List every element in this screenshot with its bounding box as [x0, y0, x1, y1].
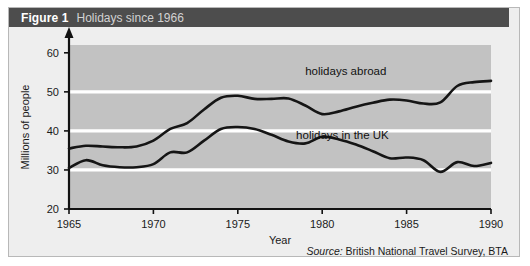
series-annotation-1: holidays in the UK [296, 129, 389, 141]
x-tick-label-1975: 1975 [226, 218, 250, 230]
x-tick-label-1980: 1980 [310, 218, 334, 230]
line-chart-svg: 2030405060 196519701975198019851990 holi… [9, 27, 511, 256]
plot-background [69, 45, 491, 209]
x-tick-label-1985: 1985 [394, 218, 418, 230]
x-tick-label-1990: 1990 [479, 218, 503, 230]
figure-caption-label: Holidays since 1966 [76, 11, 183, 25]
source-text: British National Travel Survey, BTA [346, 245, 508, 257]
source-note: Source: British National Travel Survey, … [306, 245, 508, 257]
chart-plot-area: 2030405060 196519701975198019851990 holi… [9, 27, 511, 256]
figure-number-label: Figure 1 [21, 11, 68, 25]
x-tick-label-1965: 1965 [57, 218, 81, 230]
x-axis-title: Year [269, 234, 292, 246]
y-tick-label-20: 20 [47, 203, 59, 215]
source-keyword: Source: [306, 245, 342, 257]
y-tick-label-60: 60 [47, 47, 59, 59]
y-axis-arrow [65, 27, 74, 38]
y-tick-labels: 2030405060 [47, 47, 59, 215]
y-tick-label-50: 50 [47, 86, 59, 98]
figure-title-bar: Figure 1 Holidays since 1966 [9, 8, 509, 27]
y-axis-title: Millions of people [19, 85, 31, 170]
x-tick-labels: 196519701975198019851990 [57, 218, 503, 230]
x-tick-label-1970: 1970 [141, 218, 165, 230]
series-annotation-0: holidays abroad [305, 65, 386, 77]
y-tick-label-40: 40 [47, 125, 59, 137]
y-tick-label-30: 30 [47, 164, 59, 176]
plot-background-rect [69, 45, 491, 209]
figure-root: Figure 1 Holidays since 1966 2030405060 … [0, 0, 530, 266]
